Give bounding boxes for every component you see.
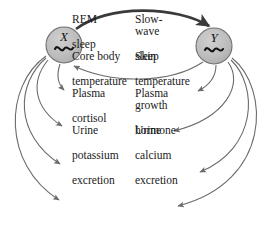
output-line-3: excretion — [135, 174, 178, 186]
output-line-1: Plasma growth — [135, 87, 168, 112]
arrow-x-to-rem-sleep — [58, 64, 64, 90]
output-line-1: Urine — [135, 124, 161, 136]
output-line-1: Plasma — [72, 87, 105, 99]
arrow-x-to-urine-potassium-excretion — [15, 56, 59, 200]
arrow-x-to-plasma-cortisol — [24, 58, 60, 164]
oscillator-node-y — [196, 28, 232, 64]
output-line-1: Urine — [72, 124, 98, 136]
output-line-3: excretion — [72, 174, 115, 186]
output-line-2: calcium — [135, 149, 171, 161]
output-line-1: Core body — [72, 50, 120, 62]
arrow-y-to-plasma-growth-hormone — [200, 60, 248, 172]
output-item-urine-calcium-excretion: Urine calcium excretion — [135, 111, 178, 187]
output-line-1: Slow-wave — [135, 13, 162, 38]
output-line-1: Skin — [135, 50, 156, 62]
output-line-2: potassium — [72, 149, 119, 161]
output-line-1: REM — [72, 13, 97, 25]
arrow-y-to-slow-wave-sleep — [198, 65, 216, 91]
output-item-urine-potassium-excretion: Urine potassium excretion — [72, 111, 119, 187]
